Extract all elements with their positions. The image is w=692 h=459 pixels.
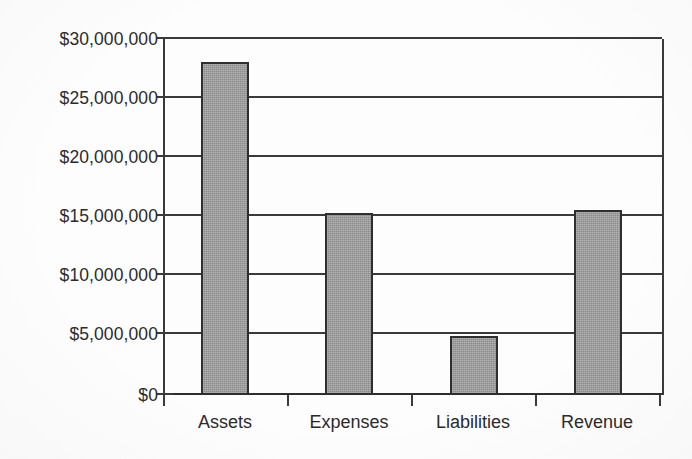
xtick-mark-2 xyxy=(411,395,413,406)
bar-liabilities[interactable] xyxy=(450,336,498,395)
xlabel-liabilities: Liabilities xyxy=(411,412,535,433)
ytick-label-20m: $20,000,000 xyxy=(8,147,158,168)
ytick-label-30m: $30,000,000 xyxy=(8,29,158,50)
bar-expenses[interactable] xyxy=(325,213,373,395)
ytick-label-5m: $5,000,000 xyxy=(8,324,158,345)
xlabel-revenue: Revenue xyxy=(535,412,659,433)
bar-revenue[interactable] xyxy=(574,210,622,395)
xtick-mark-4 xyxy=(659,395,661,406)
bars-layer xyxy=(163,39,660,395)
ytick-label-15m: $15,000,000 xyxy=(8,206,158,227)
xtick-mark-3 xyxy=(535,395,537,406)
ytick-label-10m: $10,000,000 xyxy=(8,265,158,286)
y-axis-labels: $30,000,000 $25,000,000 $20,000,000 $15,… xyxy=(0,0,158,459)
ytick-label-25m: $25,000,000 xyxy=(8,88,158,109)
xlabel-expenses: Expenses xyxy=(287,412,411,433)
xlabel-assets: Assets xyxy=(163,412,287,433)
xtick-mark-1 xyxy=(287,395,289,406)
bar-chart: $30,000,000 $25,000,000 $20,000,000 $15,… xyxy=(0,0,692,459)
bar-assets[interactable] xyxy=(201,62,249,395)
ytick-label-0: $0 xyxy=(8,385,158,406)
xtick-mark-0 xyxy=(163,395,165,406)
